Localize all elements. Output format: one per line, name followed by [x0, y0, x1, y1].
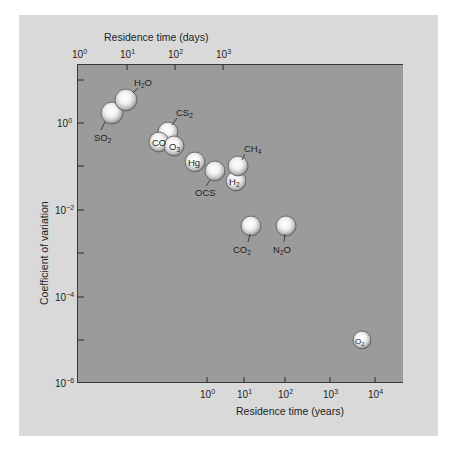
y-axis-title: Coefficient of variation [38, 201, 50, 305]
svg-text:100: 100 [72, 48, 87, 60]
point-n2o [276, 216, 296, 236]
svg-text:100: 100 [200, 388, 215, 400]
bottom-axis-ticks [207, 377, 375, 383]
point-ch4 [228, 156, 248, 176]
svg-text:10−4: 10−4 [55, 291, 74, 303]
point-labels: SO2 H2O CS2 CO O3 Hg OCS CH4 H2 CO2 N2O … [94, 77, 364, 347]
left-axis-ticks [77, 80, 84, 340]
top-axis-ticks [127, 64, 223, 70]
svg-text:10−2: 10−2 [55, 204, 74, 216]
svg-text:103: 103 [216, 48, 231, 60]
svg-text:CS2: CS2 [176, 107, 193, 119]
svg-text:CO: CO [152, 137, 166, 148]
left-axis-labels: 100 10−2 10−4 10−6 [55, 117, 74, 389]
svg-text:104: 104 [368, 388, 383, 400]
svg-text:102: 102 [168, 48, 183, 60]
svg-text:103: 103 [323, 388, 338, 400]
x-axis-title: Residence time (years) [236, 405, 344, 417]
svg-text:102: 102 [278, 388, 293, 400]
svg-text:10−6: 10−6 [55, 377, 74, 389]
scatter-chart: 100 101 102 103 Residence time (days) 10… [0, 0, 454, 451]
data-points [101, 89, 371, 349]
svg-text:101: 101 [120, 48, 135, 60]
top-axis-labels: 100 101 102 103 [72, 48, 231, 60]
svg-text:100: 100 [57, 117, 72, 129]
svg-text:N2O: N2O [273, 244, 291, 256]
svg-text:CO2: CO2 [233, 244, 251, 256]
bottom-axis-labels: 100 101 102 103 104 [200, 388, 383, 400]
svg-text:OCS: OCS [195, 187, 216, 198]
svg-text:Hg: Hg [188, 157, 200, 168]
top-axis-title: Residence time (days) [104, 31, 208, 43]
point-ocs [205, 161, 225, 181]
svg-text:101: 101 [237, 388, 252, 400]
point-co2 [241, 216, 261, 236]
svg-text:CH4: CH4 [244, 143, 262, 155]
svg-text:H2O: H2O [134, 77, 152, 89]
svg-text:SO2: SO2 [94, 132, 112, 144]
